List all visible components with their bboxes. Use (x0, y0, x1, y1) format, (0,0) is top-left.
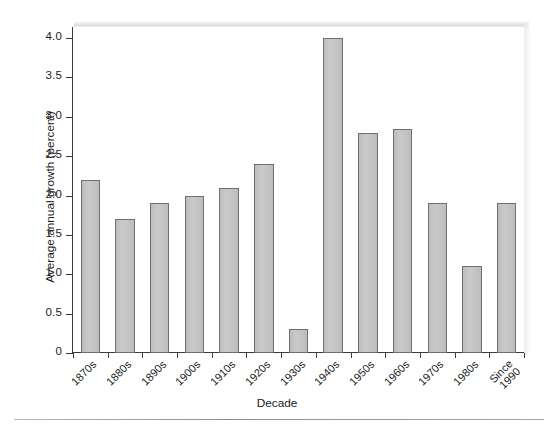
x-axis-tick (73, 353, 74, 358)
x-axis-tick (281, 353, 282, 358)
x-axis-tick-label: 1870s (58, 358, 99, 399)
y-axis-tick (66, 235, 73, 236)
bar (289, 329, 308, 353)
y-axis-tick-label: 0 (18, 345, 62, 357)
bar (462, 266, 481, 353)
y-axis-tick-label: 4.0 (18, 30, 62, 42)
y-axis-tick (66, 77, 73, 78)
chart-page: 00.51.01.52.02.53.03.54.0 Average annual… (0, 0, 554, 426)
x-axis-tick-label: 1930s (266, 358, 307, 399)
x-axis-tick-label: 1980s (439, 358, 480, 399)
y-axis-title: Average annual growth (percent) (43, 52, 57, 342)
x-axis-tick-label: 1920s (231, 358, 272, 399)
x-axis-tick-label: 1950s (335, 358, 376, 399)
bar-series (73, 27, 524, 353)
bar (393, 129, 412, 353)
x-axis-tick-label: 1900s (162, 358, 203, 399)
bar (254, 164, 273, 353)
y-axis-tick (66, 353, 73, 354)
x-axis-tick-label: 1890s (127, 358, 168, 399)
x-axis-tick (212, 353, 213, 358)
x-axis-tick-label: 1960s (370, 358, 411, 399)
x-axis-tick-label: 1910s (197, 358, 238, 399)
x-axis-tick (246, 353, 247, 358)
x-axis-tick (455, 353, 456, 358)
y-axis-tick (66, 156, 73, 157)
y-axis-tick (66, 314, 73, 315)
x-axis-tick (177, 353, 178, 358)
x-axis-tick (524, 353, 525, 358)
x-axis-tick (385, 353, 386, 358)
bar (150, 203, 169, 353)
x-axis-tick (420, 353, 421, 358)
y-axis-tick (66, 274, 73, 275)
bar (185, 196, 204, 354)
x-axis-tick-label: 1880s (93, 358, 134, 399)
x-axis-tick (142, 353, 143, 358)
page-rule (14, 419, 544, 420)
bar (115, 219, 134, 353)
y-axis-tick (66, 38, 73, 39)
bar (497, 203, 516, 353)
x-axis-tick-label: 1970s (405, 358, 446, 399)
x-axis-tick-label: 1940s (301, 358, 342, 399)
x-axis-tick (316, 353, 317, 358)
y-axis-tick (66, 196, 73, 197)
x-axis-title: Decade (0, 396, 554, 410)
bar (428, 203, 447, 353)
bar (219, 188, 238, 353)
x-axis-tick (489, 353, 490, 358)
bar (323, 38, 342, 353)
y-axis-tick (66, 117, 73, 118)
bar (358, 133, 377, 354)
x-axis-tick (108, 353, 109, 358)
x-axis-tick (351, 353, 352, 358)
bar (81, 180, 100, 353)
